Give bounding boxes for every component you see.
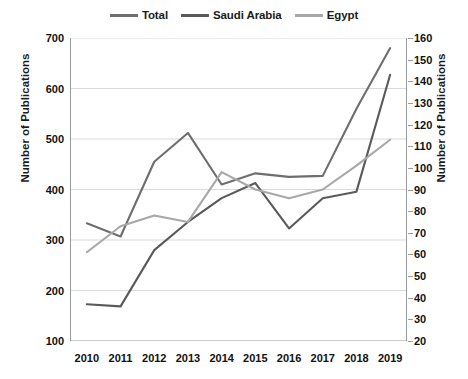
left-tick-label: 400 [46, 184, 64, 196]
legend-swatch-total [110, 14, 138, 17]
x-tick-label: 2014 [209, 352, 233, 364]
right-tick-mark [408, 168, 413, 169]
legend-item-saudi-arabia[interactable]: Saudi Arabia [181, 9, 282, 21]
left-tick-label: 500 [46, 133, 64, 145]
right-tick-label: 40 [414, 292, 426, 304]
chart-svg [70, 38, 407, 341]
legend-label-saudi-arabia: Saudi Arabia [213, 9, 282, 21]
x-tick-label: 2016 [277, 352, 301, 364]
x-tick-label: 2013 [176, 352, 200, 364]
x-tick-label: 2018 [344, 352, 368, 364]
x-tick-label: 2015 [243, 352, 267, 364]
right-tick-mark [408, 276, 413, 277]
left-tick-label: 200 [46, 285, 64, 297]
legend-item-total[interactable]: Total [110, 9, 168, 21]
legend-label-egypt: Egypt [327, 9, 358, 21]
right-tick-label: 30 [414, 313, 426, 325]
x-tick-label: 2012 [142, 352, 166, 364]
legend-swatch-saudi-arabia [181, 14, 209, 17]
right-tick-mark [408, 38, 413, 39]
left-tick-label: 700 [46, 32, 64, 44]
right-axis-ticks: 1601501401301201101009080706050403020 [414, 38, 454, 341]
right-tick-mark [408, 298, 413, 299]
right-tick-mark [408, 233, 413, 234]
right-tick-label: 70 [414, 227, 426, 239]
x-tick-label: 2017 [311, 352, 335, 364]
x-axis-ticks: 2010201120122013201420152016201720182019 [70, 352, 407, 368]
right-tick-label: 60 [414, 248, 426, 260]
series-line-total [87, 48, 390, 236]
right-tick-label: 20 [414, 335, 426, 347]
right-tick-label: 90 [414, 184, 426, 196]
right-tick-label: 140 [414, 75, 432, 87]
right-tick-mark [408, 146, 413, 147]
plot-area [70, 38, 407, 341]
right-tick-mark [408, 81, 413, 82]
right-tick-mark [408, 211, 413, 212]
left-tick-label: 600 [46, 83, 64, 95]
legend-swatch-egypt [295, 14, 323, 17]
right-tick-mark [408, 341, 413, 342]
right-tick-mark [408, 254, 413, 255]
legend-item-egypt[interactable]: Egypt [295, 9, 358, 21]
right-tick-label: 80 [414, 205, 426, 217]
left-tick-label: 300 [46, 234, 64, 246]
left-axis-ticks: 700600500400300200100 [0, 38, 64, 341]
x-tick-label: 2011 [109, 352, 133, 364]
right-tick-mark [408, 60, 413, 61]
left-tick-label: 100 [46, 335, 64, 347]
chart-legend: Total Saudi Arabia Egypt [0, 9, 468, 21]
legend-label-total: Total [142, 9, 168, 21]
series-line-saudi-arabia [87, 75, 390, 307]
right-tick-label: 110 [414, 140, 432, 152]
series-line-egypt [87, 140, 390, 253]
right-tick-label: 50 [414, 270, 426, 282]
x-tick-label: 2019 [378, 352, 402, 364]
right-tick-label: 160 [414, 32, 432, 44]
x-tick-label: 2010 [75, 352, 99, 364]
right-tick-label: 120 [414, 119, 432, 131]
right-tick-label: 100 [414, 162, 432, 174]
right-tick-label: 130 [414, 97, 432, 109]
right-tick-label: 150 [414, 54, 432, 66]
right-tick-mark [408, 103, 413, 104]
chart-container: Total Saudi Arabia Egypt Number of Publi… [0, 0, 468, 379]
right-tick-mark [408, 125, 413, 126]
right-tick-mark [408, 190, 413, 191]
right-tick-mark [408, 319, 413, 320]
